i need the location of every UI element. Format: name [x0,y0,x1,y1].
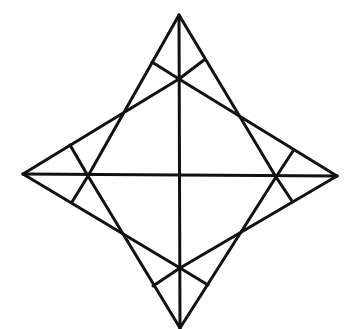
tick-right-top [276,151,293,177]
edge-left-to-top-inner [23,79,179,174]
star-lines [23,15,337,328]
tick-left-bottom [72,176,88,202]
star-diagram [0,0,355,329]
tick-bottom-right [180,268,208,285]
edge-left-to-bottom-inner [23,174,180,268]
edge-top-to-right-inner [179,15,276,177]
edge-bottom-to-right-inner [180,177,276,328]
edge-top-to-left-inner [88,15,179,176]
edge-bottom-to-left-inner [88,176,180,328]
tick-left-top [70,145,88,176]
edge-right-to-bottom-inner [180,176,337,268]
axis-horizontal [23,174,337,176]
edge-right-to-top-inner [179,79,337,176]
tick-top-left [152,62,179,79]
tick-top-right [179,60,204,79]
axis-vertical [179,15,180,328]
tick-right-bottom [276,177,292,201]
tick-bottom-left [153,268,180,286]
